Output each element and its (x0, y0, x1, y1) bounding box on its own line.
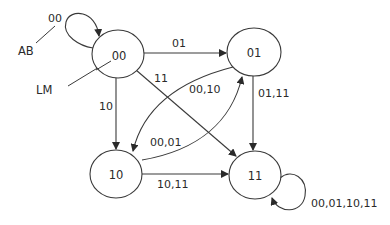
transition-label-00-11: 11 (154, 72, 168, 85)
state-diagram: 00 AB LM 01 10 11 00,10 00,01 01,11 10,1… (0, 0, 390, 225)
transition-label-00-01: 01 (172, 37, 186, 50)
output-label-LM: LM (36, 83, 52, 97)
state-10: 10 (90, 150, 142, 198)
transition-label-10-01: 00,01 (150, 136, 182, 149)
input-label-leader (36, 26, 55, 43)
input-label-AB: AB (18, 44, 34, 58)
transition-label-11-11: 00,01,10,11 (311, 197, 377, 210)
transition-label-01-11: 01,11 (258, 87, 290, 100)
state-11: 11 (229, 151, 281, 199)
state-01: 01 (227, 28, 281, 76)
state-label-00: 00 (112, 49, 127, 63)
transition-label-01-10: 00,10 (189, 83, 221, 96)
transition-label-00-10: 10 (99, 100, 113, 113)
state-label-01: 01 (247, 46, 262, 60)
state-00: 00 (92, 30, 144, 78)
state-label-10: 10 (109, 168, 124, 182)
transition-label-10-11: 10,11 (157, 178, 189, 191)
transition-00-to-00 (65, 13, 99, 48)
state-label-11: 11 (248, 169, 263, 183)
transition-label-00-00: 00 (48, 12, 62, 25)
